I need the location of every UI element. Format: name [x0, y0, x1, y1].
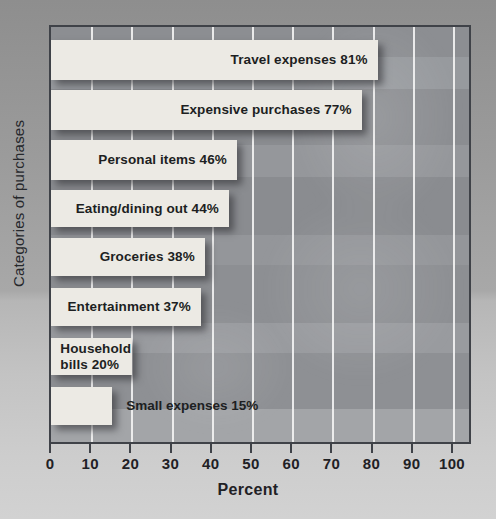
gridline-80 — [373, 27, 375, 442]
bar[interactable]: Entertainment 37% — [51, 288, 201, 326]
x-tick-40 — [210, 444, 212, 453]
gridline-100 — [453, 27, 455, 442]
bar-label: Small expenses 15% — [126, 398, 258, 413]
plot-area: Travel expenses 81%Expensive purchases 7… — [49, 25, 471, 444]
x-tick-60 — [290, 444, 292, 453]
bar[interactable]: Expensive purchases 77% — [51, 90, 362, 130]
bar-label: Expensive purchases 77% — [180, 102, 351, 117]
bar[interactable] — [51, 387, 112, 425]
x-tick-label-40: 40 — [202, 455, 220, 472]
bar[interactable]: Personal items 46% — [51, 140, 237, 180]
x-tick-label-50: 50 — [242, 455, 260, 472]
x-tick-label-70: 70 — [323, 455, 341, 472]
x-tick-label-100: 100 — [439, 455, 465, 472]
x-tick-0 — [49, 444, 51, 453]
bar-label: Eating/dining out 44% — [76, 201, 219, 216]
x-tick-20 — [129, 444, 131, 453]
bar-label: Groceries 38% — [100, 249, 195, 264]
x-tick-label-10: 10 — [81, 455, 99, 472]
bar[interactable]: Groceries 38% — [51, 238, 205, 276]
bar-label: Travel expenses 81% — [231, 52, 368, 67]
bar-label: Personal items 46% — [98, 152, 227, 167]
x-tick-label-20: 20 — [122, 455, 140, 472]
bar-label: Householdbills 20% — [52, 341, 131, 371]
x-tick-90 — [411, 444, 413, 453]
x-tick-100 — [451, 444, 453, 453]
x-tick-80 — [371, 444, 373, 453]
bar[interactable]: Householdbills 20% — [51, 338, 132, 375]
x-tick-50 — [250, 444, 252, 453]
x-tick-10 — [89, 444, 91, 453]
x-tick-label-0: 0 — [46, 455, 55, 472]
x-axis-ticks — [49, 444, 471, 454]
x-tick-70 — [330, 444, 332, 453]
x-tick-label-80: 80 — [363, 455, 381, 472]
chart-figure: Travel expenses 81%Expensive purchases 7… — [0, 0, 496, 519]
bar[interactable]: Eating/dining out 44% — [51, 190, 229, 227]
x-axis-title: Percent — [0, 481, 496, 499]
x-axis-tick-labels: 0102030405060708090100 — [0, 455, 496, 477]
x-tick-label-30: 30 — [162, 455, 180, 472]
bar-label: Entertainment 37% — [68, 299, 191, 314]
x-tick-30 — [170, 444, 172, 453]
bar[interactable]: Travel expenses 81% — [51, 40, 378, 80]
x-tick-label-60: 60 — [282, 455, 300, 472]
y-axis-title: Categories of purchases — [10, 104, 27, 304]
gridline-90 — [413, 27, 415, 442]
x-tick-label-90: 90 — [403, 455, 421, 472]
